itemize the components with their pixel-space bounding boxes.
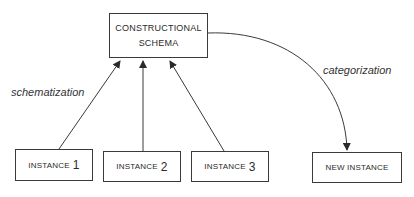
arrow-instance1-to-schema — [59, 61, 120, 149]
new-instance-label: NEW INSTANCE — [325, 163, 388, 172]
instance-2-node: INSTANCE2 — [103, 151, 181, 182]
new-instance-node: NEW INSTANCE — [312, 152, 402, 183]
categorization-label: categorization — [323, 64, 392, 76]
schema-label-line2: SCHEMA — [139, 36, 179, 51]
constructional-schema-node: CONSTRUCTIONAL SCHEMA — [109, 13, 208, 58]
instance-3-node: INSTANCE3 — [191, 151, 269, 182]
arrow-instance3-to-schema — [170, 61, 224, 151]
instance-number: 2 — [161, 160, 168, 174]
instance-1-node: INSTANCE1 — [15, 149, 93, 181]
instance-label: INSTANCE — [28, 161, 69, 170]
schema-label-line1: CONSTRUCTIONAL — [115, 21, 201, 36]
instance-label: INSTANCE — [204, 162, 245, 171]
schematization-label: schematization — [11, 86, 84, 98]
instance-label: INSTANCE — [116, 162, 157, 171]
instance-number: 1 — [73, 158, 80, 172]
arrow-schema-to-new-instance — [208, 33, 347, 150]
instance-number: 3 — [249, 160, 256, 174]
